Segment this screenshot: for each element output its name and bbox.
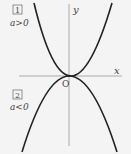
origin-label: O xyxy=(62,79,69,89)
parabola-diagram: y x O 1 a>0 2 a<0 xyxy=(0,0,131,154)
case-2-number: 2 xyxy=(15,91,20,100)
case-2-condition: a<0 xyxy=(10,102,29,112)
case-1-number: 1 xyxy=(15,6,20,15)
x-axis-label: x xyxy=(114,65,120,76)
y-axis-label: y xyxy=(72,4,79,15)
case-1-condition: a>0 xyxy=(10,18,29,28)
